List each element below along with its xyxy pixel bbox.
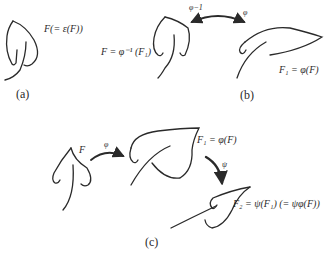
arrow-c-phi xyxy=(91,153,123,160)
label-c-leaf2: F₁ = φ(F) xyxy=(197,135,237,145)
label-c-leaf1: F xyxy=(79,145,85,155)
label-c-arrow-psi: ψ xyxy=(222,161,227,169)
leaf-b-left xyxy=(154,17,190,78)
label-b-arrow-forward: φ xyxy=(243,9,247,17)
caption-b: (b) xyxy=(240,89,254,101)
caption-a: (a) xyxy=(16,88,29,100)
leaf-c-1 xyxy=(53,148,91,210)
label-c-arrow-phi: φ xyxy=(104,141,108,149)
figure-canvas xyxy=(0,0,336,265)
label-b-left: F = φ⁻¹ (F₁) xyxy=(101,47,151,57)
leaf-a xyxy=(5,21,38,80)
arrow-b-double xyxy=(192,16,244,22)
label-c-leaf3: F₂ = ψ(F₁) (= ψφ(F)) xyxy=(233,199,320,209)
label-a-identity: F(= ε(F)) xyxy=(44,24,83,34)
arrow-c-psi xyxy=(206,157,222,183)
leaf-c-2 xyxy=(130,128,199,185)
label-b-arrow-inverse: φ−1 xyxy=(189,4,203,12)
label-b-right: F₁ = φ(F) xyxy=(279,65,319,75)
caption-c: (c) xyxy=(145,236,158,248)
